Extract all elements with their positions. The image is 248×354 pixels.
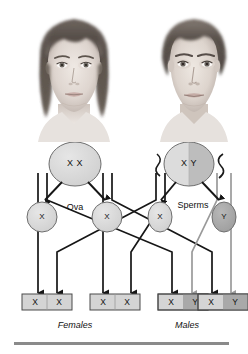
ovum-2-allele: X [104,212,110,221]
females-caption: Females [58,320,93,330]
offspring-1-right-allele: X [56,297,62,307]
sperm-1: X [148,202,172,232]
mother-cell-xx: X X [49,142,101,186]
offspring-2-right-allele: X [124,297,130,307]
father-cell-xy: X Y [164,142,214,186]
offspring-4-left-allele: X [208,297,214,307]
figure-canvas: X X X Y X X Ova X [0,0,248,354]
female-parent-photo [22,6,126,142]
father-genotype-label: X Y [181,158,197,168]
offspring-box-4: X Y [198,294,248,310]
ova-label: Ova [67,202,84,212]
sperm-2: Y [212,202,236,232]
sperm-tail-left [156,154,160,176]
males-caption: Males [175,320,200,330]
connector-ovum2 [103,173,212,293]
offspring-2-left-allele: X [100,297,106,307]
mother-genotype-label: X X [67,158,83,168]
connector-sperm-x [57,173,165,293]
offspring-3-left-allele: X [168,297,174,307]
meiosis-arrow-father-left [161,182,176,200]
sperm-tail-right [218,154,223,178]
ovum-1-allele: X [39,212,45,221]
offspring-1-left-allele: X [32,297,38,307]
male-parent-photo [146,8,242,142]
sperms-label: Sperms [177,200,209,210]
ovum-1: X [27,202,57,232]
connector-ovum1 [38,173,172,293]
offspring-3-right-allele: Y [192,297,198,307]
ovum-2: X [92,202,122,232]
offspring-4-right-allele: Y [232,297,238,307]
bottom-rule [14,342,229,345]
sex-determination-diagram: X X X Y X X Ova X [0,142,248,354]
offspring-box-2: X X [90,294,140,310]
sperm-2-allele: Y [221,212,227,221]
sperm-1-allele: X [157,212,163,221]
offspring-box-1: X X [22,294,72,310]
